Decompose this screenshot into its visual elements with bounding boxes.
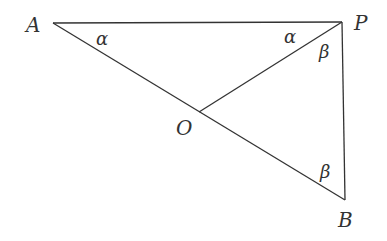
segment-ap [53,22,342,23]
angle-label-alpha-a: α [96,28,108,49]
segment-po [199,22,342,112]
point-label-a: A [24,13,40,37]
point-label-p: P [353,11,368,35]
point-label-o: O [176,116,192,140]
angle-label-alpha-p: α [284,26,296,47]
segment-pb [342,22,345,200]
angle-label-beta-b: β [319,161,330,182]
angle-label-beta-p: β [318,41,329,62]
triangle-diagram: A P O B α α β β [0,0,387,241]
point-label-b: B [337,208,353,232]
